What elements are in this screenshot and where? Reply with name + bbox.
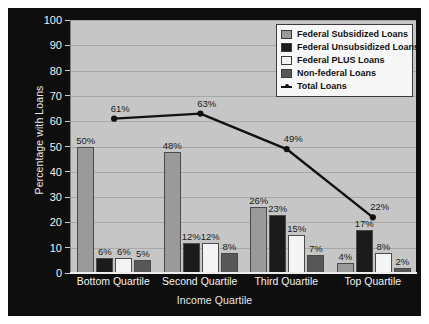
legend-swatch [281, 30, 292, 39]
legend-item-label: Total Loans [297, 81, 347, 92]
legend-item[interactable]: Total Loans [281, 80, 408, 93]
y-axis-tick-label: 20 [50, 216, 62, 228]
bar-data-label: 23% [268, 204, 287, 214]
bar[interactable]: 12% [183, 243, 200, 273]
bar-data-label: 12% [182, 232, 201, 242]
legend-item[interactable]: Federal PLUS Loans [281, 54, 408, 67]
bar[interactable]: 6% [96, 258, 113, 273]
legend-line-marker-icon [281, 82, 292, 91]
bar-fill [164, 152, 181, 273]
legend-item[interactable]: Federal Subsidized Loans [281, 28, 408, 41]
line-data-label: 22% [370, 202, 389, 212]
chart-legend: Federal Subsidized LoansFederal Unsubsid… [276, 24, 413, 97]
bar-fill [96, 258, 113, 273]
bar-fill [375, 253, 392, 273]
line-data-label: 49% [284, 134, 303, 144]
bar-data-label: 15% [287, 224, 306, 234]
legend-item-label: Federal Unsubsidized Loans [297, 42, 419, 53]
bar-data-label: 8% [376, 242, 390, 252]
y-axis-tick: 50 [50, 141, 70, 153]
bar-data-label: 12% [201, 232, 220, 242]
y-axis-tick: 30 [50, 191, 70, 203]
y-axis-tick: 100 [44, 14, 70, 26]
y-axis-tick-label: 40 [50, 166, 62, 178]
bar-data-label: 5% [136, 249, 150, 259]
bar-fill [250, 207, 267, 273]
bar-group: 50%6%6%5% [71, 20, 158, 273]
x-axis-title: Income Quartile [8, 294, 421, 306]
bar[interactable]: 8% [221, 253, 238, 273]
bar-fill [221, 253, 238, 273]
y-axis-tick-labels: 1009080706050403020100 [8, 8, 70, 316]
y-axis-tick-label: 70 [50, 90, 62, 102]
bar-data-label: 6% [117, 247, 131, 257]
x-axis-tick-label: Bottom Quartile [77, 275, 150, 287]
y-axis-tick: 40 [50, 166, 70, 178]
bar[interactable]: 50% [77, 147, 94, 274]
bar-fill [77, 147, 94, 274]
y-axis-tick: 80 [50, 65, 70, 77]
x-axis-tick-label: Third Quartile [254, 275, 318, 287]
bar[interactable]: 15% [288, 235, 305, 273]
bar-data-label: 4% [338, 252, 352, 262]
bar-group: 48%12%12%8% [158, 20, 245, 273]
bar[interactable]: 26% [250, 207, 267, 273]
y-axis-tick: 90 [50, 39, 70, 51]
legend-item-label: Non-federal Loans [297, 68, 376, 79]
bar-fill [183, 243, 200, 273]
bar-fill [202, 243, 219, 273]
bar-data-label: 17% [355, 219, 374, 229]
legend-swatch [281, 43, 292, 52]
bar-data-label: 7% [309, 244, 323, 254]
bar-data-label: 8% [222, 242, 236, 252]
y-axis-tick-label: 100 [44, 14, 62, 26]
legend-swatch [281, 69, 292, 78]
y-axis-tick-label: 10 [50, 242, 62, 254]
y-axis-tick-label: 50 [50, 141, 62, 153]
bar-fill [307, 255, 324, 273]
bar-data-label: 26% [249, 196, 268, 206]
y-axis-tick-label: 80 [50, 65, 62, 77]
y-axis-tick-label: 30 [50, 191, 62, 203]
bar[interactable]: 7% [307, 255, 324, 273]
line-data-label: 63% [197, 99, 216, 109]
y-axis-tick-label: 0 [56, 267, 62, 279]
legend-swatch [281, 56, 292, 65]
x-axis-tick-labels: Bottom QuartileSecond QuartileThird Quar… [70, 275, 416, 293]
x-axis-baseline [70, 272, 417, 274]
bar[interactable]: 6% [115, 258, 132, 273]
bar[interactable]: 8% [375, 253, 392, 273]
legend-item[interactable]: Federal Unsubsidized Loans [281, 41, 408, 54]
chart-figure: Percentage with Loans 100908070605040302… [8, 8, 421, 316]
legend-item-label: Federal Subsidized Loans [297, 29, 408, 40]
y-axis-tick-label: 90 [50, 39, 62, 51]
legend-item-label: Federal PLUS Loans [297, 55, 385, 66]
bar[interactable]: 17% [356, 230, 373, 273]
bar-fill [288, 235, 305, 273]
y-axis-tick: 10 [50, 242, 70, 254]
y-axis-tick: 0 [56, 267, 70, 279]
line-data-label: 61% [111, 104, 130, 114]
y-axis-tick: 60 [50, 115, 70, 127]
bar-fill [356, 230, 373, 273]
y-axis-tick-label: 60 [50, 115, 62, 127]
bar[interactable]: 12% [202, 243, 219, 273]
bar-data-label: 50% [76, 136, 95, 146]
x-axis-tick-label: Second Quartile [162, 275, 237, 287]
bar-data-label: 6% [98, 247, 112, 257]
x-axis-tick-label: Top Quartile [344, 275, 401, 287]
bar-fill [115, 258, 132, 273]
y-axis-tick: 20 [50, 216, 70, 228]
y-axis-tick: 70 [50, 90, 70, 102]
bar-fill [269, 215, 286, 273]
legend-item[interactable]: Non-federal Loans [281, 67, 408, 80]
bar-data-label: 48% [163, 141, 182, 151]
bar[interactable]: 48% [164, 152, 181, 273]
bar-data-label: 2% [395, 257, 409, 267]
bar[interactable]: 23% [269, 215, 286, 273]
